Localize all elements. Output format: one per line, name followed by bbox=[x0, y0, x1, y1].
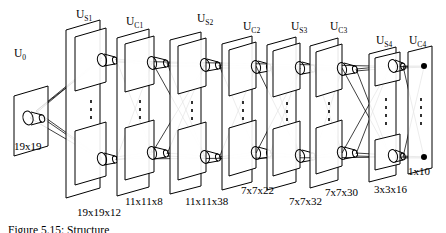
plane-uc4 bbox=[408, 46, 432, 174]
plane-uc2 bbox=[222, 36, 256, 190]
layer-label-us2: US2 bbox=[197, 13, 213, 25]
layer-label-u0: U0 bbox=[14, 48, 26, 60]
figure-caption: Figure 5.15: Structure bbox=[8, 224, 109, 233]
dimension-label-uc3: 7x7x30 bbox=[325, 187, 358, 198]
layer-label-uc4: UC4 bbox=[409, 35, 426, 47]
dimension-label-us3: 7x7x32 bbox=[289, 196, 322, 207]
dimension-label-uc1: 11x11x8 bbox=[125, 196, 163, 207]
layer-label-uc2: UC2 bbox=[243, 21, 260, 33]
plane-uc1 bbox=[117, 29, 154, 196]
figure-root: U0 US1 UC1 US2 UC2 US3 UC3 US4 UC4 19x19… bbox=[0, 0, 446, 233]
plane-us3 bbox=[267, 37, 300, 190]
dimension-label-us1: 19x19x12 bbox=[77, 207, 121, 218]
plane-uc3 bbox=[310, 38, 342, 188]
layer-label-us4: US4 bbox=[376, 35, 392, 47]
layer-label-us1: US1 bbox=[76, 9, 92, 21]
dimension-label-uc4: 1x10 bbox=[408, 166, 430, 177]
plane-us1 bbox=[66, 20, 106, 198]
layer-label-uc3: UC3 bbox=[330, 21, 347, 33]
plane-us2 bbox=[170, 32, 206, 194]
dimension-label-uc2: 7x7x22 bbox=[241, 185, 274, 196]
layer-label-uc1: UC1 bbox=[126, 16, 143, 28]
dimension-label-us4: 3x3x16 bbox=[374, 184, 407, 195]
layer-label-us3: US3 bbox=[291, 21, 307, 33]
dimension-label-us2: 11x11x38 bbox=[185, 196, 228, 207]
dimension-label-u0: 19x19 bbox=[14, 141, 42, 152]
